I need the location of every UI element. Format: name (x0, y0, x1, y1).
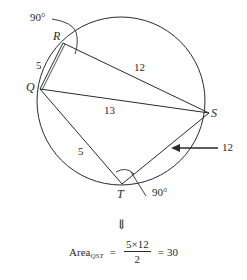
equation-equals-1: = (110, 246, 116, 258)
implies-arrow-icon: ⇓ (116, 218, 127, 231)
label-point-r: R (53, 31, 60, 42)
label-segment-ts: 12 (222, 142, 233, 153)
equation-equals-2: = (158, 246, 164, 258)
pointer-arrow-head (171, 144, 180, 152)
label-segment-qs: 13 (104, 105, 115, 116)
area-equation: Area QST = 5×12 2 = 30 (0, 238, 247, 265)
equation-numerator: 5×12 (124, 238, 151, 252)
label-point-q: Q (26, 82, 35, 93)
label-point-t: T (117, 189, 124, 200)
label-point-s: S (211, 108, 217, 119)
equation-result: 30 (167, 246, 178, 258)
label-segment-qr: 5 (36, 60, 42, 71)
label-segment-qt: 5 (78, 146, 84, 157)
equation-subscript: QST (90, 252, 103, 260)
equation-lhs: Area (69, 246, 90, 258)
label-angle-r: 90° (30, 12, 45, 23)
segment-qr (40, 43, 63, 89)
equation-denominator: 2 (135, 252, 141, 265)
equation-fraction: 5×12 2 (124, 238, 151, 265)
label-segment-rs: 12 (134, 62, 145, 73)
label-angle-t: 90° (152, 187, 167, 198)
